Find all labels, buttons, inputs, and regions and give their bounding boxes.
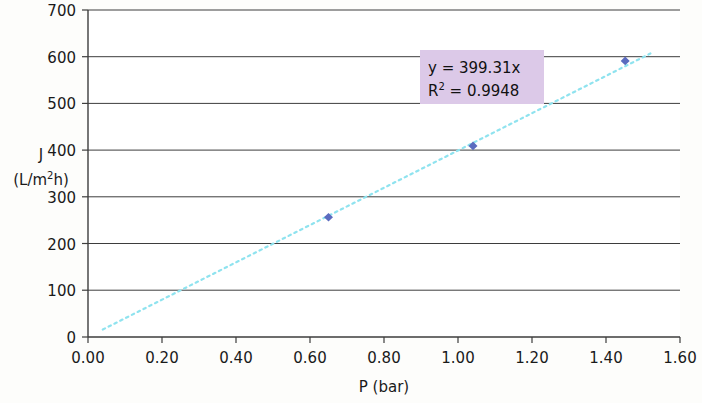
x-tick-label: 1.20 [515, 349, 548, 367]
r-squared-suffix: = 0.9948 [445, 82, 520, 100]
x-tick-label: 1.60 [663, 349, 696, 367]
r-squared-prefix: R [428, 82, 438, 100]
x-tick-label: 0.60 [293, 349, 326, 367]
equation-text: y = 399.31x [428, 59, 520, 77]
y-tick-label: 0 [66, 329, 76, 347]
x-tick-label: 1.40 [589, 349, 622, 367]
plot-area-background [88, 10, 680, 337]
flux-vs-pressure-chart: 700 600 500 400 300 200 100 0 0.00 0.20 … [0, 0, 702, 403]
x-tick-label: 1.00 [441, 349, 474, 367]
chart-container: 700 600 500 400 300 200 100 0 0.00 0.20 … [0, 0, 702, 403]
x-tick-label: 0.80 [367, 349, 400, 367]
x-axis-ticks [88, 337, 680, 343]
x-tick-label: 0.40 [219, 349, 252, 367]
y-axis-ticks [82, 10, 88, 337]
y-tick-label: 400 [47, 142, 76, 160]
y-tick-label: 300 [47, 189, 76, 207]
x-tick-label: 0.00 [71, 349, 104, 367]
y-axis-title-suffix: h) [53, 171, 68, 189]
y-tick-label: 700 [47, 2, 76, 20]
x-tick-label: 0.20 [145, 349, 178, 367]
y-axis-title-prefix: (L/m [13, 171, 47, 189]
y-axis-title-line2: (L/m2h) [13, 170, 69, 189]
y-tick-label: 200 [47, 236, 76, 254]
y-tick-label: 600 [47, 49, 76, 67]
y-tick-label: 500 [47, 95, 76, 113]
x-axis-title: P (bar) [359, 378, 409, 396]
y-axis-title-line1: J [38, 146, 43, 164]
y-tick-label: 100 [47, 282, 76, 300]
